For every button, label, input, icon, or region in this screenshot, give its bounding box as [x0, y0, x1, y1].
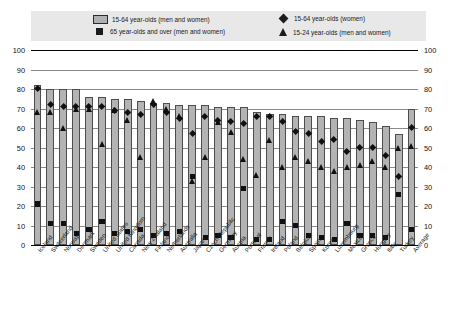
y-tick-left-70: 70 — [3, 105, 25, 114]
marker-triangle-switzerland — [47, 109, 53, 115]
gridline-90 — [31, 70, 418, 71]
chart-root: 15-64 year-olds (men and women) 65 year-… — [0, 0, 460, 311]
bar-australia — [175, 105, 183, 245]
marker-triangle-austria — [228, 129, 234, 135]
bar-ireland — [266, 114, 274, 245]
marker-square-norway — [61, 221, 66, 226]
marker-square-poland — [280, 219, 285, 224]
bar-united-kingdom — [111, 99, 119, 245]
legend-triangle-swatch-icon — [279, 28, 287, 36]
y-tick-left-90: 90 — [3, 66, 25, 75]
marker-triangle-iceland — [34, 109, 40, 115]
marker-triangle-czech-republic — [202, 154, 208, 160]
gridline-80 — [31, 89, 418, 90]
bar-germany — [214, 107, 222, 245]
marker-triangle-hungary — [369, 158, 375, 164]
marker-triangle-average — [408, 143, 414, 149]
marker-triangle-italy — [382, 164, 388, 170]
marker-square-average — [409, 227, 414, 232]
y-tick-right-40: 40 — [424, 163, 448, 172]
chart-legend: 15-64 year-olds (men and women) 65 year-… — [31, 11, 426, 41]
legend-item-square: 65 year-olds and over (men and women) — [93, 28, 225, 35]
bar-czech-republic — [201, 105, 209, 245]
legend-label-triangle: 15-24 year-olds (men and women) — [293, 29, 391, 36]
bar-sweden — [85, 97, 93, 245]
bar-korea — [317, 116, 325, 245]
marker-triangle-mexico — [344, 164, 350, 170]
marker-triangle-japan — [189, 178, 195, 184]
legend-item-diamond: 15-64 year-olds (women) — [277, 15, 365, 22]
y-tick-left-20: 20 — [3, 202, 25, 211]
y-tick-left-40: 40 — [3, 163, 25, 172]
y-tick-right-90: 90 — [424, 66, 448, 75]
y-tick-right-30: 30 — [424, 183, 448, 192]
y-tick-right-70: 70 — [424, 105, 448, 114]
legend-label-bar: 15-64 year-olds (men and women) — [112, 16, 210, 23]
bar-poland — [279, 114, 287, 245]
y-tick-left-0: 0 — [3, 241, 25, 250]
legend-square-swatch-icon — [96, 28, 103, 35]
y-tick-right-10: 10 — [424, 222, 448, 231]
marker-square-belgium — [293, 223, 298, 228]
y-tick-right-60: 60 — [424, 124, 448, 133]
y-tick-right-0: 0 — [424, 241, 448, 250]
plot-area — [31, 50, 418, 245]
y-tick-left-30: 30 — [3, 183, 25, 192]
legend-label-diamond: 15-64 year-olds (women) — [294, 15, 365, 22]
marker-square-portugal — [241, 186, 246, 191]
y-tick-left-80: 80 — [3, 85, 25, 94]
bar-france — [253, 112, 261, 245]
marker-triangle-spain — [305, 158, 311, 164]
bar-turkey — [395, 134, 403, 245]
bar-italy — [382, 126, 390, 245]
marker-triangle-united-states — [99, 141, 105, 147]
marker-square-switzerland — [48, 221, 53, 226]
marker-triangle-ireland — [266, 137, 272, 143]
legend-item-triangle: 15-24 year-olds (men and women) — [277, 28, 391, 36]
y-tick-left-50: 50 — [3, 144, 25, 153]
x-axis-labels: IcelandSwitzerlandNorwayDenmarkSwedenUni… — [31, 247, 418, 311]
marker-triangle-norway — [60, 125, 66, 131]
marker-triangle-korea — [318, 164, 324, 170]
y-tick-left-10: 10 — [3, 222, 25, 231]
y-tick-left-60: 60 — [3, 124, 25, 133]
y-tick-right-80: 80 — [424, 85, 448, 94]
marker-triangle-canada — [124, 117, 130, 123]
marker-triangle-greece — [357, 162, 363, 168]
y-tick-right-50: 50 — [424, 144, 448, 153]
y-tick-left-100: 100 — [3, 46, 25, 55]
marker-triangle-luxembourg — [331, 168, 337, 174]
legend-diamond-swatch-icon — [279, 14, 289, 24]
legend-item-bar: 15-64 year-olds (men and women) — [93, 15, 210, 24]
marker-square-iceland — [35, 201, 40, 206]
y-tick-right-100: 100 — [424, 46, 448, 55]
marker-triangle-new-zealand — [137, 154, 143, 160]
marker-triangle-france — [253, 172, 259, 178]
marker-triangle-portugal — [240, 156, 246, 162]
bar-hungary — [369, 122, 377, 245]
marker-square-united-states — [99, 219, 104, 224]
legend-box-swatch-icon — [93, 15, 108, 24]
gridline-100 — [31, 50, 418, 51]
marker-square-turkey — [396, 192, 401, 197]
y-tick-right-20: 20 — [424, 202, 448, 211]
marker-triangle-belgium — [292, 154, 298, 160]
legend-label-square: 65 year-olds and over (men and women) — [110, 28, 225, 35]
marker-triangle-poland — [279, 164, 285, 170]
marker-triangle-turkey — [395, 145, 401, 151]
marker-square-mexico — [344, 221, 349, 226]
bar-denmark — [72, 89, 80, 245]
bar-finland — [150, 103, 158, 245]
